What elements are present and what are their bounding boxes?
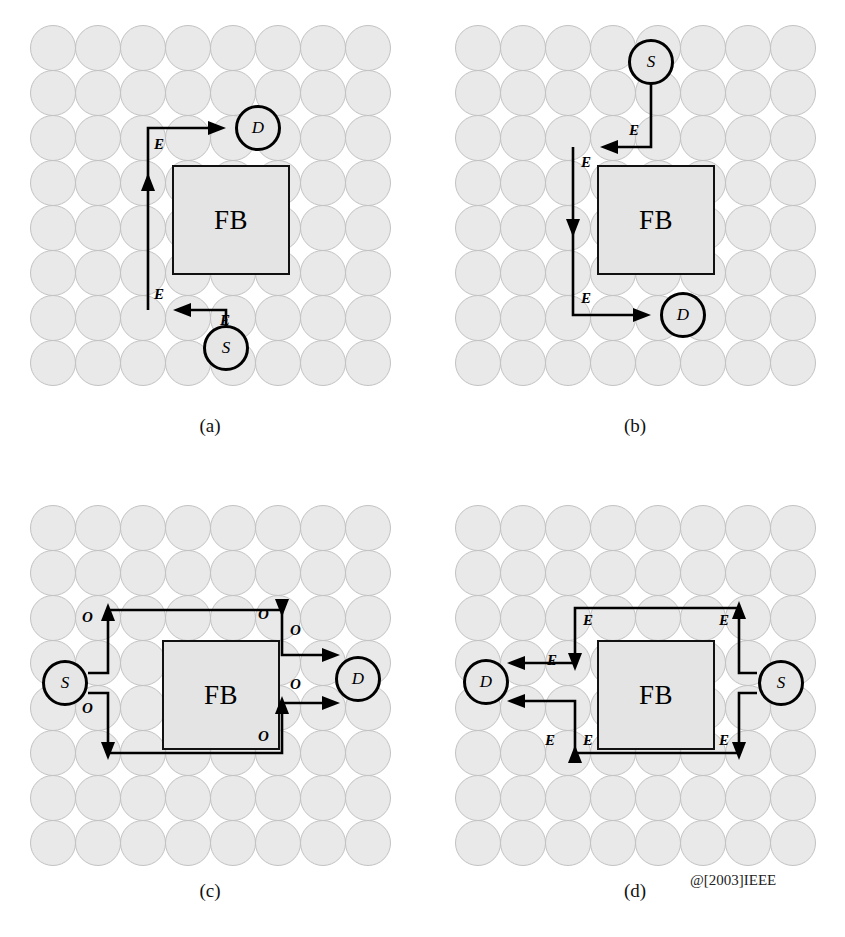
turn-label: O <box>258 607 269 622</box>
turn-label: E <box>581 291 591 306</box>
destination-label: D <box>252 118 264 138</box>
turn-label: E <box>154 287 164 302</box>
panel-caption-d: (d) <box>575 880 695 902</box>
turn-label: E <box>154 137 164 152</box>
source-label: S <box>777 673 786 693</box>
turn-label: E <box>719 733 729 748</box>
source-node-a: S <box>203 325 249 371</box>
destination-label: D <box>677 305 689 325</box>
turn-label: E <box>545 733 555 748</box>
turn-label: E <box>629 123 639 138</box>
destination-label: D <box>352 669 364 689</box>
destination-label: D <box>480 672 492 692</box>
source-label: S <box>61 673 70 693</box>
turn-label: O <box>82 701 93 716</box>
panel-c: FB S D O O O O O O <box>30 505 390 865</box>
source-label: S <box>222 338 231 358</box>
panel-caption-c: (c) <box>150 880 270 902</box>
copyright-notice: @[2003]IEEE <box>690 872 776 889</box>
turn-label: O <box>82 610 93 625</box>
source-label: S <box>647 52 656 72</box>
turn-label: O <box>290 677 301 692</box>
destination-node-b: D <box>660 292 706 338</box>
destination-node-c: D <box>335 656 381 702</box>
panel-b: FB S D E E E <box>455 25 815 385</box>
destination-node-a: D <box>235 105 281 151</box>
turn-label: O <box>290 623 301 638</box>
source-node-d: S <box>758 660 804 706</box>
panel-a: FB D S E E E <box>30 25 390 385</box>
panel-d: FB D S E E E E E E <box>455 505 815 865</box>
destination-node-d: D <box>463 659 509 705</box>
turn-label: O <box>258 729 269 744</box>
turn-label: E <box>583 733 593 748</box>
panel-caption-a: (a) <box>150 415 270 437</box>
turn-label: E <box>581 155 591 170</box>
panel-caption-b: (b) <box>575 415 695 437</box>
turn-label: E <box>547 653 557 668</box>
turn-label: E <box>719 613 729 628</box>
turn-label: E <box>220 313 230 328</box>
source-node-b: S <box>628 39 674 85</box>
turn-label: E <box>583 613 593 628</box>
